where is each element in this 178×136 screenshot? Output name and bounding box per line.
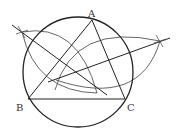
cross-mark-1 — [16, 26, 28, 38]
construction-diagram: A B C — [0, 0, 178, 136]
arc-right-upper — [55, 37, 160, 90]
circumcircle — [23, 17, 133, 127]
vertex-label-c: C — [127, 103, 135, 113]
cross-mark-2 — [154, 35, 166, 47]
vertex-label-a: A — [88, 9, 95, 19]
vertex-label-b: B — [16, 103, 23, 113]
bisector-lines — [12, 25, 170, 95]
arc-right-lower — [56, 41, 160, 88]
diagram-canvas — [0, 0, 178, 136]
